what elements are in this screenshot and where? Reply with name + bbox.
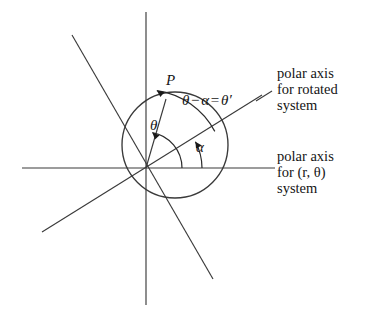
caption-original-system: polar axis for (r, θ) system — [277, 148, 334, 197]
equation-minus-operator: − — [190, 92, 202, 108]
angle-theta-label: θ — [150, 117, 157, 134]
caption-rotated-line-2: for rotated — [277, 81, 338, 97]
angle-alpha-label: α — [196, 139, 204, 156]
caption-rotated-system: polar axis for rotated system — [277, 65, 338, 114]
equation-theta-term: θ — [182, 92, 190, 108]
leader-line-rotated-axis — [256, 91, 272, 101]
caption-original-line-1: polar axis — [277, 148, 334, 164]
equation-theta-minus-alpha-label: θ−α=θ′ — [182, 92, 232, 109]
caption-original-line-2: for (r, θ) — [277, 164, 334, 180]
rotated-perpendicular-axis-line — [72, 35, 213, 279]
rotated-polar-axis-line — [42, 95, 262, 232]
polar-rotation-figure: P θ α θ−α=θ′ polar axis for rotated syst… — [0, 0, 380, 316]
caption-rotated-line-1: polar axis — [277, 65, 338, 81]
point-p-label: P — [166, 72, 175, 89]
equation-theta-prime-term: θ′ — [221, 92, 232, 108]
caption-original-line-3: system — [277, 180, 334, 196]
equation-equals-operator: = — [209, 92, 221, 108]
caption-rotated-line-3: system — [277, 97, 338, 113]
